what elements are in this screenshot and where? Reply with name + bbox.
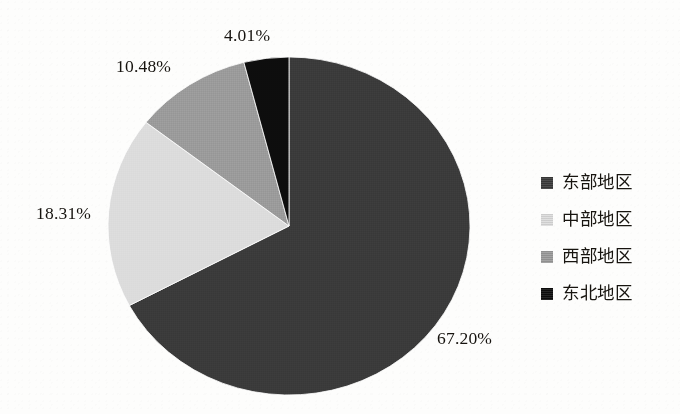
data-label-northeast: 4.01% [224,25,270,46]
legend-label-northeast: 东北地区 [562,285,632,303]
pie-chart-figure: 4.01% 10.48% 18.31% 67.20% 东部地区 中部地区 西部地… [0,0,680,414]
legend-item-east[interactable]: 东部地区 [541,164,671,201]
legend-swatch-icon-west [541,251,553,263]
legend-swatch-icon-east [541,177,553,189]
data-label-east: 67.20% [437,328,492,349]
pie-slice-group [108,57,470,395]
legend-label-central: 中部地区 [562,211,632,229]
legend-item-northeast[interactable]: 东北地区 [541,275,671,312]
chart-legend: 东部地区 中部地区 西部地区 东北地区 [541,164,671,312]
legend-item-west[interactable]: 西部地区 [541,238,671,275]
legend-swatch-icon-northeast [541,288,553,300]
data-label-central: 18.31% [36,203,91,224]
legend-item-central[interactable]: 中部地区 [541,201,671,238]
legend-swatch-icon-central [541,214,553,226]
legend-label-east: 东部地区 [562,174,632,192]
pie-chart-canvas [108,57,470,395]
legend-label-west: 西部地区 [562,248,632,266]
data-label-west: 10.48% [116,56,171,77]
pie-chart-svg [108,57,470,395]
